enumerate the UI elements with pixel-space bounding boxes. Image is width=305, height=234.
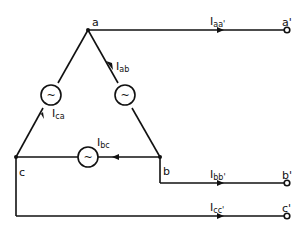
wire-source-ab-to-b [132, 108, 160, 157]
node-b-prime-label: b' [282, 169, 292, 182]
node-a-dot [86, 28, 90, 32]
current-bb-label: Ibb' [210, 168, 226, 182]
arrow-bc-icon [112, 154, 119, 160]
wire-a-to-source-ab [88, 30, 118, 83]
delta-circuit-diagram: ~ ~ ~ a b c a' b' c' Iab Ica Ibc Iaa' Ib… [0, 0, 305, 234]
node-c-prime-label: c' [282, 202, 291, 215]
source-bc-symbol: ~ [83, 151, 92, 164]
current-aa-label: Iaa' [210, 15, 225, 29]
node-c-dot [14, 155, 18, 159]
current-ca-label: Ica [52, 107, 65, 121]
source-ab-symbol: ~ [120, 89, 129, 102]
node-a-label: a [92, 16, 99, 29]
source-ca-symbol: ~ [46, 89, 55, 102]
node-a-prime-label: a' [282, 16, 292, 29]
current-ab-label: Iab [116, 60, 129, 74]
node-b-dot [158, 155, 162, 159]
current-bc-label: Ibc [97, 136, 110, 150]
node-b-label: b [163, 165, 170, 178]
wire-source-ca-to-c [16, 108, 43, 157]
wire-a-to-source-ca [58, 30, 88, 83]
node-c-label: c [19, 166, 25, 179]
current-cc-label: Icc' [210, 201, 224, 215]
